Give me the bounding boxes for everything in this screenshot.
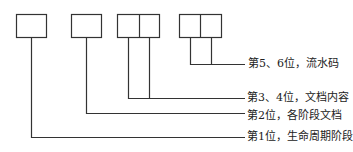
- label-lifecycle: 第1位，生命周期阶段: [247, 131, 353, 143]
- connector-serial: [191, 38, 246, 65]
- label-content: 第3、4位，文档内容: [247, 92, 349, 104]
- label-stage-doc: 第2位，各阶段文档: [247, 110, 342, 122]
- box-digit-1: [17, 15, 47, 38]
- connector-content: [129, 38, 246, 99]
- label-serial: 第5、6位，流水码: [248, 58, 339, 70]
- connector-lifecycle: [32, 38, 246, 138]
- box-digits-3-4: [118, 15, 160, 38]
- connector-stage-doc: [87, 38, 246, 114]
- box-digit-2: [72, 15, 102, 38]
